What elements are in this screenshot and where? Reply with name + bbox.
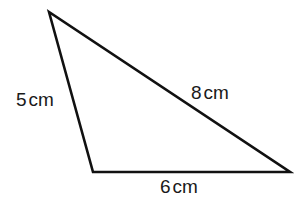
side-left-value: 5 <box>16 89 27 110</box>
triangle-diagram: 5cm 8cm 6cm <box>0 0 294 207</box>
side-left-unit: cm <box>29 89 54 110</box>
side-hypotenuse-value: 8 <box>191 82 202 103</box>
side-hypotenuse-unit: cm <box>204 82 229 103</box>
side-bottom-value: 6 <box>160 176 171 197</box>
side-label-bottom: 6cm <box>160 176 198 198</box>
side-bottom-unit: cm <box>173 176 198 197</box>
side-label-left: 5cm <box>16 89 54 111</box>
side-label-hypotenuse: 8cm <box>191 82 229 104</box>
